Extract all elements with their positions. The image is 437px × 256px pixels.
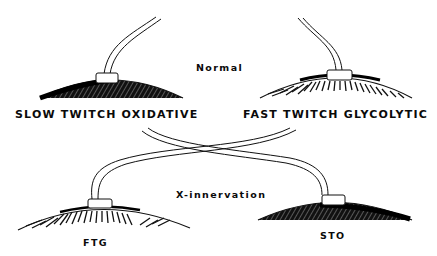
slow-twitch-oxidative-label: SLOW TWITCH OXIDATIVE (15, 108, 198, 121)
muscle-ftg (18, 206, 190, 230)
nerve-top-left (104, 17, 161, 74)
sto-label: STO (320, 230, 346, 241)
x-innervation-label: X-innervation (176, 189, 266, 200)
end-plate-top-right (327, 70, 352, 80)
innervation-diagram (0, 0, 437, 256)
fast-twitch-glycolytic-label: FAST TWITCH GLYCOLYTIC (243, 108, 428, 121)
end-plate-bottom-right (322, 195, 345, 205)
end-plate-top-left (96, 73, 118, 83)
normal-label: Normal (196, 62, 243, 73)
ftg-label: FTG (83, 237, 108, 248)
nerve-top-right (298, 18, 342, 70)
end-plate-bottom-left (88, 199, 112, 208)
nerve-cross-to-sto (142, 128, 328, 195)
